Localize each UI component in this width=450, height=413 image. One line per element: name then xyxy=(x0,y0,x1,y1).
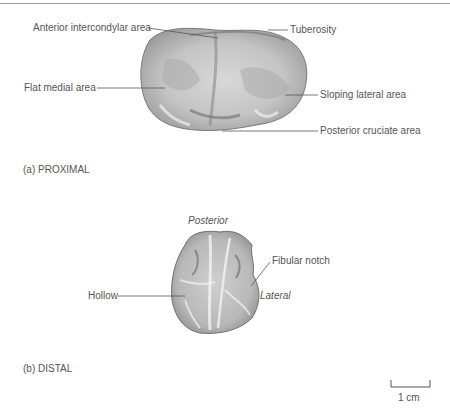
label-posterior: Posterior xyxy=(188,215,228,227)
label-flat-medial-area: Flat medial area xyxy=(24,82,96,94)
bone-illustrations xyxy=(0,0,450,413)
scale-bar-label: 1 cm xyxy=(398,392,420,403)
label-lateral: Lateral xyxy=(260,290,291,302)
label-posterior-cruciate-area: Posterior cruciate area xyxy=(320,125,421,137)
label-tuberosity: Tuberosity xyxy=(290,24,336,36)
label-anterior-intercondylar-area: Anterior intercondylar area xyxy=(33,22,151,34)
proximal-bone xyxy=(141,28,307,130)
label-sloping-lateral-area: Sloping lateral area xyxy=(320,89,406,101)
label-hollow: Hollow xyxy=(88,290,118,302)
label-fibular-notch: Fibular notch xyxy=(272,255,330,267)
caption-distal: (b) DISTAL xyxy=(23,363,72,374)
distal-bone xyxy=(172,231,259,333)
scale-bar xyxy=(391,380,430,387)
caption-proximal: (a) PROXIMAL xyxy=(23,164,90,175)
